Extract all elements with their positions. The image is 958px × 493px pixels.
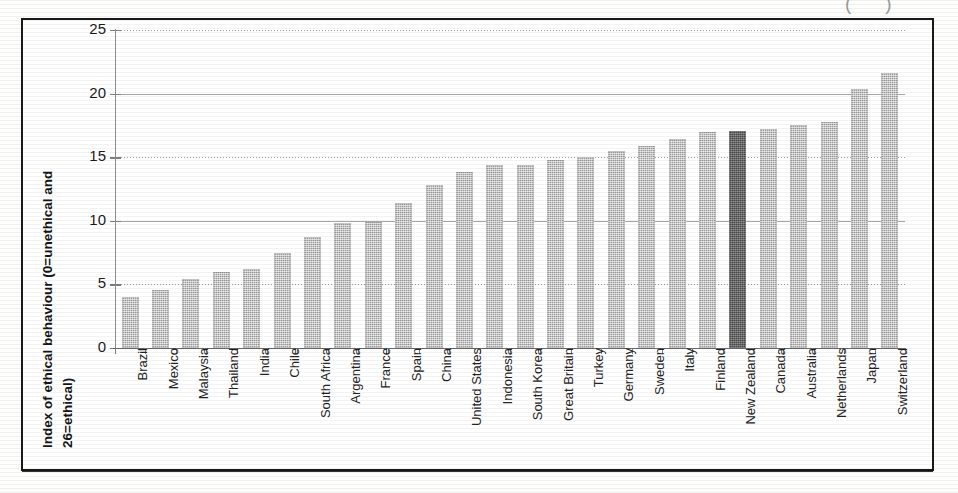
bar-sweden: [638, 146, 655, 348]
bar-fill: [577, 157, 594, 348]
category-label-sweden: Sweden: [652, 348, 667, 460]
bar-united-states: [456, 172, 473, 348]
category-label-netherlands: Netherlands: [834, 348, 849, 460]
bar-turkey: [577, 157, 594, 348]
bar-fill: [243, 269, 260, 348]
bar-fill: [182, 279, 199, 348]
bar-fill: [426, 185, 443, 348]
bar-malaysia: [182, 279, 199, 348]
bar-finland: [699, 132, 716, 348]
category-label-turkey: Turkey: [591, 348, 606, 460]
bar-fill: [486, 165, 503, 348]
y-tick-label-10: 10: [66, 211, 106, 228]
bar-thailand: [213, 272, 230, 348]
bar-fill: [213, 272, 230, 348]
category-label-south-korea: South Korea: [530, 348, 545, 460]
category-label-thailand: Thailand: [226, 348, 241, 460]
category-label-germany: Germany: [621, 348, 636, 460]
bar-chile: [274, 253, 291, 348]
bar-fill: [760, 129, 777, 348]
category-label-spain: Spain: [409, 348, 424, 460]
bar-new-zealand: [729, 131, 746, 349]
category-label-italy: Italy: [682, 348, 697, 460]
category-label-india: India: [257, 348, 272, 460]
bar-fill: [729, 131, 746, 349]
category-label-indonesia: Indonesia: [500, 348, 515, 460]
bar-argentina: [334, 223, 351, 348]
bar-fill: [790, 125, 807, 348]
bar-fill: [395, 203, 412, 348]
category-label-finland: Finland: [713, 348, 728, 460]
bar-fill: [304, 237, 321, 348]
figure-canvas: () Index of ethical behaviour (0=unethic…: [0, 0, 958, 493]
bar-fill: [881, 73, 898, 348]
bar-france: [365, 222, 382, 348]
category-label-canada: Canada: [773, 348, 788, 460]
bar-fill: [547, 160, 564, 348]
bar-fill: [274, 253, 291, 348]
bar-fill: [365, 222, 382, 348]
bar-italy: [669, 139, 686, 348]
category-label-switzerland: Switzerland: [895, 348, 910, 460]
x-axis-category-labels: BrazilMexicoMalaysiaThailandIndiaChileSo…: [115, 352, 905, 464]
bar-south-korea: [517, 165, 534, 348]
bar-china: [426, 185, 443, 348]
bar-fill: [638, 146, 655, 348]
category-label-japan: Japan: [864, 348, 879, 460]
bar-australia: [790, 125, 807, 348]
bar-fill: [851, 89, 868, 348]
y-tick-label-5: 5: [66, 274, 106, 291]
y-tick-label-15: 15: [66, 147, 106, 164]
category-label-mexico: Mexico: [166, 348, 181, 460]
category-label-argentina: Argentina: [348, 348, 363, 460]
cutoff-text-fragment: (): [845, 0, 926, 15]
category-label-chile: Chile: [287, 348, 302, 460]
bar-indonesia: [486, 165, 503, 348]
y-tick-label-0: 0: [66, 338, 106, 355]
bar-fill: [821, 122, 838, 348]
category-label-great-britain: Great Britain: [561, 348, 576, 460]
y-tick-label-20: 20: [66, 84, 106, 101]
category-label-australia: Australia: [804, 348, 819, 460]
bar-south-africa: [304, 237, 321, 348]
bar-mexico: [152, 290, 169, 349]
bar-spain: [395, 203, 412, 348]
bar-brazil: [122, 297, 139, 348]
bar-series: [115, 30, 905, 348]
bar-fill: [517, 165, 534, 348]
bar-netherlands: [821, 122, 838, 348]
bar-fill: [152, 290, 169, 349]
bar-fill: [456, 172, 473, 348]
bar-fill: [699, 132, 716, 348]
category-label-china: China: [439, 348, 454, 460]
y-tick-label-25: 25: [66, 20, 106, 37]
category-label-united-states: United States: [469, 348, 484, 460]
bar-fill: [122, 297, 139, 348]
y-axis-title-line-1: Index of ethical behaviour (0=unethical …: [38, 28, 58, 448]
bar-canada: [760, 129, 777, 348]
category-label-south-africa: South Africa: [318, 348, 333, 460]
bar-great-britain: [547, 160, 564, 348]
bar-germany: [608, 151, 625, 348]
bar-fill: [334, 223, 351, 348]
category-label-france: France: [378, 348, 393, 460]
bar-india: [243, 269, 260, 348]
bar-fill: [669, 139, 686, 348]
category-label-malaysia: Malaysia: [196, 348, 211, 460]
bar-fill: [608, 151, 625, 348]
category-label-brazil: Brazil: [135, 348, 150, 460]
bar-switzerland: [881, 73, 898, 348]
bar-japan: [851, 89, 868, 348]
category-label-new-zealand: New Zealand: [743, 348, 758, 460]
